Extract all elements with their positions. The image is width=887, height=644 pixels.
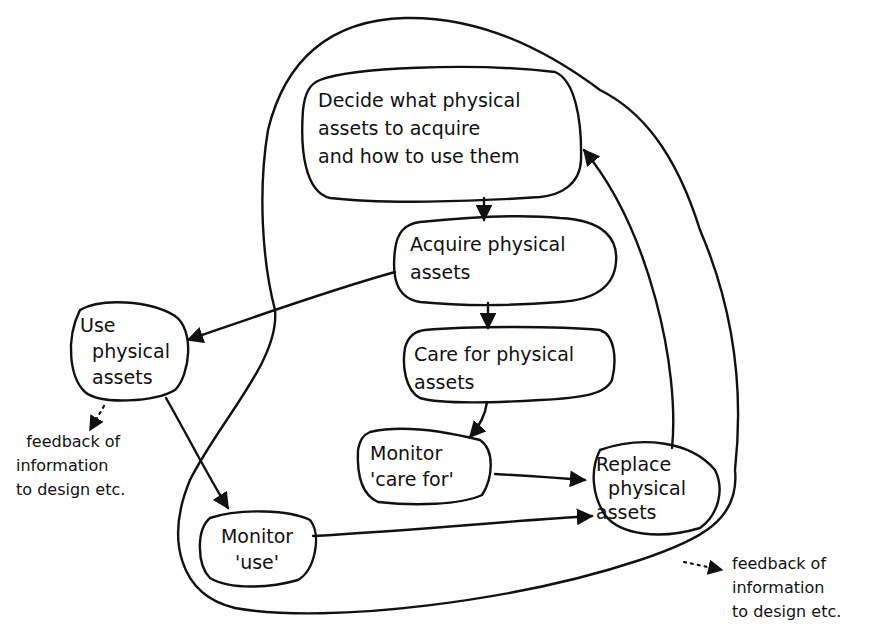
feedback-note-right: feedback of information to design etc.	[732, 552, 841, 624]
edge-monitor-care-to-replace	[495, 474, 585, 480]
edge-use-feedback	[90, 406, 104, 430]
node-monitor-care-label: Monitor 'care for'	[370, 440, 454, 492]
edge-outer-feedback	[684, 562, 722, 570]
feedback-note-left: feedback of information to design etc.	[16, 430, 125, 502]
node-acquire-label: Acquire physical assets	[410, 230, 566, 286]
edge-care-to-monitor-care	[470, 402, 487, 437]
edge-use-to-monitor-use	[166, 398, 228, 508]
edge-replace-to-decide	[584, 150, 673, 448]
edge-acquire-to-use	[188, 272, 395, 340]
node-monitor-use-label: Monitor 'use'	[207, 523, 307, 575]
node-use-label: Use physical assets	[80, 312, 170, 390]
edge-monitor-use-to-replace	[313, 516, 592, 536]
node-care-label: Care for physical assets	[414, 340, 574, 396]
node-decide-label: Decide what physical assets to acquire a…	[318, 86, 520, 170]
node-replace-label: Replace physical assets	[596, 452, 686, 524]
